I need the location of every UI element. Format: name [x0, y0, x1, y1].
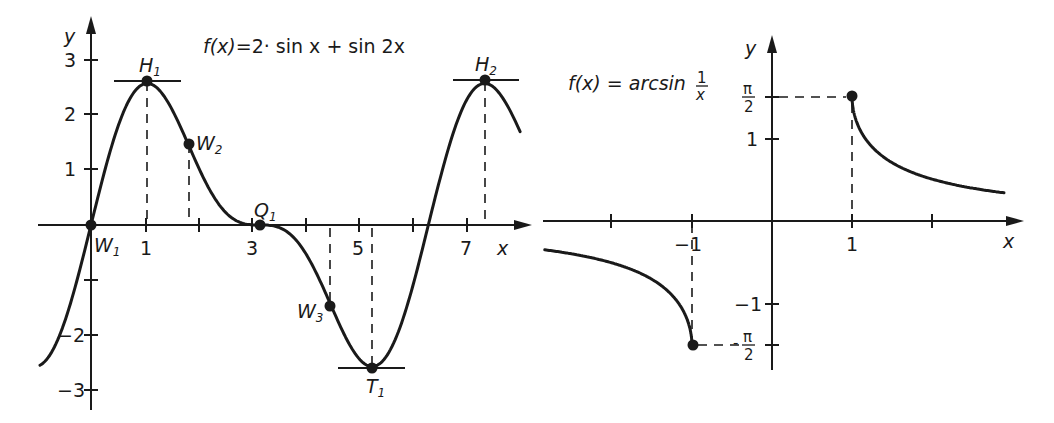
y-tick-neg-sign: - — [733, 334, 738, 352]
point-w1 — [86, 220, 97, 231]
right-x-label: x — [1002, 230, 1015, 252]
x-tick-label-neg1: −1 — [674, 233, 702, 255]
right-x-arrow-icon — [1006, 216, 1024, 226]
label-q1: Q1 — [254, 199, 277, 224]
left-plot: f(x)=2· sin x + sin 2x y x 1 3 5 7 3 2 1… — [38, 16, 532, 410]
figure: f(x)=2· sin x + sin 2x y x 1 3 5 7 3 2 1… — [0, 0, 1054, 423]
y-tick-neg-two: 2 — [744, 346, 754, 364]
x-tick-label-3: 3 — [246, 237, 258, 259]
point-h1 — [142, 76, 153, 87]
y-tick-two: 2 — [744, 98, 754, 116]
y-tick-neg-pi: π — [743, 328, 752, 346]
left-x-label: x — [496, 237, 509, 259]
left-title: f(x)=2· sin x + sin 2x — [203, 35, 405, 57]
label-w2: W2 — [196, 132, 222, 157]
point-t1 — [367, 363, 378, 374]
y-tick-label-2: 2 — [64, 103, 76, 125]
y-tick-label-1: 1 — [746, 128, 758, 150]
title-frac-den: x — [695, 86, 705, 104]
label-t1: T1 — [366, 375, 385, 400]
point-endpoint-right — [847, 91, 858, 102]
point-endpoint-left — [688, 340, 699, 351]
left-y-arrow-icon — [86, 16, 96, 34]
x-tick-label-1: 1 — [846, 233, 858, 255]
label-h2: H2 — [475, 53, 497, 78]
x-tick-label-1: 1 — [140, 237, 152, 259]
arcsin-right-branch — [852, 95, 1004, 193]
y-tick-label-neg1: −1 — [734, 293, 762, 315]
left-x-arrow-icon — [514, 220, 532, 230]
title-frac-num: 1 — [697, 69, 707, 87]
y-tick-label-neg2: −2 — [57, 324, 85, 346]
x-tick-label-5: 5 — [352, 237, 364, 259]
label-h1: H1 — [139, 54, 161, 79]
y-tick-label-3: 3 — [64, 49, 76, 71]
point-w3 — [325, 301, 336, 312]
y-tick-pi: π — [743, 80, 752, 98]
right-title: f(x) = arcsin — [568, 72, 686, 94]
y-tick-label-neg3: −3 — [57, 379, 85, 401]
right-plot: f(x) = arcsin 1 x y x −1 1 π 2 1 −1 - π … — [543, 35, 1024, 370]
y-tick-label-1: 1 — [64, 158, 76, 180]
point-w2 — [184, 139, 195, 150]
x-tick-label-7: 7 — [460, 237, 472, 259]
label-w1: W1 — [94, 234, 120, 259]
right-y-label: y — [744, 37, 757, 59]
arcsin-left-branch — [545, 250, 692, 347]
left-y-label: y — [63, 25, 76, 47]
label-w3: W3 — [297, 300, 323, 325]
point-q1 — [255, 220, 266, 231]
right-y-arrow-icon — [767, 35, 777, 53]
